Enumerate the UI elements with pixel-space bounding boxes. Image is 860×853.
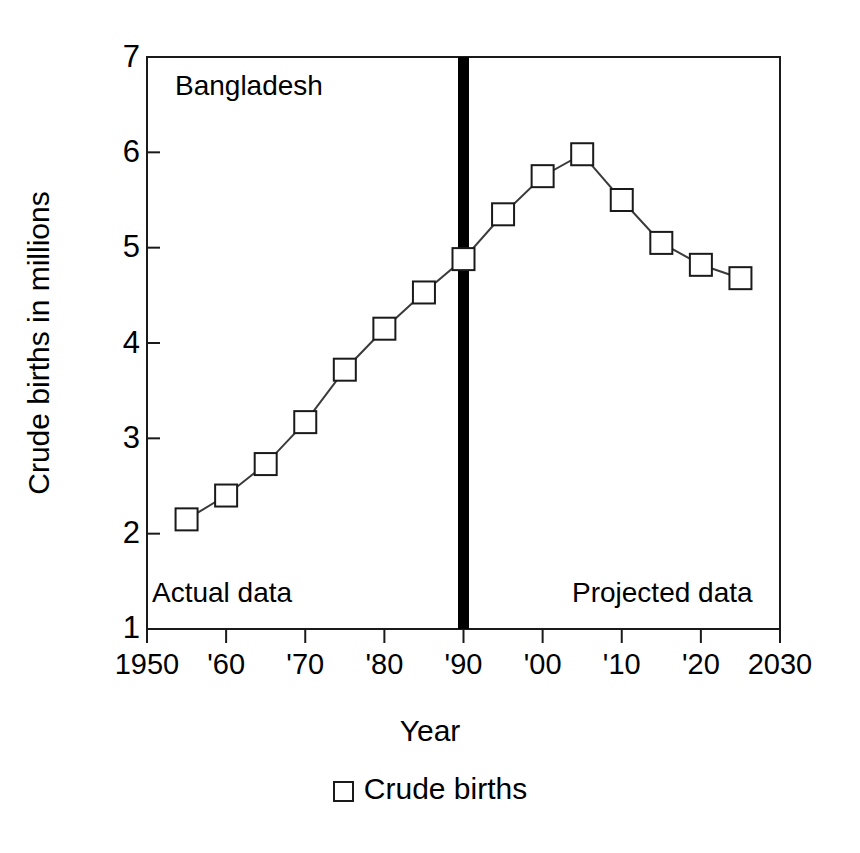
data-point-marker [413,281,435,303]
data-point-marker [571,143,593,165]
x-tick-label: 2030 [720,650,840,679]
data-point-marker [532,165,554,187]
annotation-region: Bangladesh [175,70,323,102]
data-point-marker [334,359,356,381]
x-axis-title: Year [0,714,860,748]
data-point-marker [176,508,198,530]
data-point-marker [650,232,672,254]
data-point-marker [373,318,395,340]
data-point-marker [453,248,475,270]
data-point-marker [255,453,277,475]
x-tick-marks [147,629,780,643]
data-point-marker [611,189,633,211]
data-point-marker [492,203,514,225]
annotation-projected-data: Projected data [572,577,753,609]
data-point-marker [215,485,237,507]
annotation-actual-data: Actual data [152,577,292,609]
data-point-marker [690,254,712,276]
legend-marker-square-icon [333,781,354,802]
data-point-marker [729,267,751,289]
chart-figure: Crude births in millions 7 6 5 4 3 2 1 1… [0,0,860,853]
legend-label-crude-births: Crude births [364,772,527,806]
chart-legend: Crude births [0,772,860,806]
y-tick-marks [147,152,160,533]
data-point-marker [294,411,316,433]
